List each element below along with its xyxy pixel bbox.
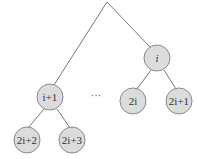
svg-text:i: i [155, 52, 158, 64]
edge-root-i+1 [54, 2, 107, 85]
node-2i: 2i [120, 88, 146, 114]
edge-i+1-2i+2 [28, 109, 44, 128]
node-i: i [144, 45, 170, 71]
svg-text:i+1: i+1 [43, 91, 58, 103]
node-2i+1: 2i+1 [166, 88, 192, 114]
svg-text:2i+1: 2i+1 [169, 95, 189, 107]
edge-i-2i+1 [164, 70, 176, 89]
edge-root-i [107, 2, 150, 47]
edge-i+1-2i+3 [57, 109, 70, 128]
svg-text:2i+3: 2i+3 [62, 134, 83, 146]
svg-text:2i: 2i [129, 95, 138, 107]
node-2i+3: 2i+3 [59, 127, 85, 153]
tree-diagram: i 2i 2i+1 i+1 2i+2 2i+3 ··· [0, 0, 197, 159]
svg-text:2i+2: 2i+2 [17, 134, 37, 146]
node-i+1: i+1 [37, 84, 63, 110]
ellipsis: ··· [91, 89, 102, 101]
node-2i+2: 2i+2 [14, 127, 40, 153]
edge-i-2i [137, 70, 151, 89]
